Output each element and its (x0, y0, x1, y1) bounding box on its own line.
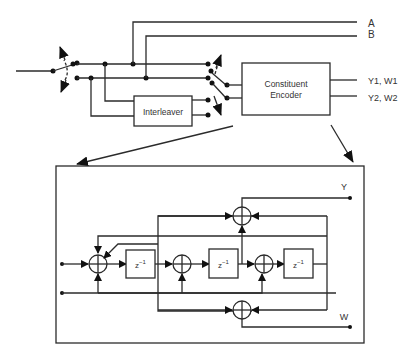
interleaver-label: Interleaver (143, 107, 183, 117)
output-y1w1-label: Y1, W1 (368, 76, 398, 86)
detail-arrow-left (77, 126, 233, 164)
top-encoder-section: A B Interleaver Constituent Encoder (16, 18, 398, 164)
adder-w (233, 301, 251, 319)
encoder-input-switch (209, 55, 230, 115)
output-a-line (133, 22, 357, 64)
constituent-encoder-block (242, 63, 330, 115)
output-y-label: Y (341, 182, 347, 192)
output-b-label: B (368, 29, 375, 40)
interleaver-input-2 (91, 78, 134, 116)
detail-arrow-right (331, 125, 353, 162)
output-w-label: W (340, 312, 349, 322)
constituent-encoder-detail: z−1 z−1 z−1 (56, 166, 364, 343)
encoder-label-line2: Encoder (270, 90, 302, 100)
interleaver-input-1 (105, 64, 134, 101)
adder-3 (255, 255, 273, 273)
turbo-encoder-diagram: A B Interleaver Constituent Encoder (0, 0, 411, 361)
output-y2w2-label: Y2, W2 (368, 93, 398, 103)
input-switch-icon (60, 47, 67, 92)
encoder-label-line1: Constituent (265, 79, 309, 89)
input-switch-arm (53, 65, 72, 71)
adder-y (233, 207, 251, 225)
adder-2 (173, 255, 191, 273)
output-a-label: A (368, 18, 375, 29)
